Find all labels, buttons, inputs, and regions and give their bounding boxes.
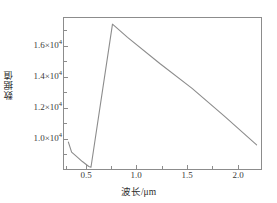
x-tick-mark [187, 165, 188, 169]
x-tick-mark-minor [111, 166, 112, 169]
x-tick-label: 1.5 [174, 171, 200, 180]
data-series-line [68, 24, 256, 167]
x-tick-mark-minor [162, 166, 163, 169]
y-tick-label: 1.6×104 [33, 41, 62, 50]
plot-area [63, 17, 262, 170]
x-tick-mark [136, 165, 137, 169]
x-tick-mark [238, 165, 239, 169]
chart-page: 数据值 1.6×104 1.4×104 1.2×104 1.0×104 0.5 … [0, 0, 277, 203]
y-tick-label: 1.0×104 [33, 134, 62, 143]
x-tick-mark-minor [66, 166, 67, 169]
figure-caption [0, 200, 277, 203]
x-axis-title: 波长/μm [0, 184, 277, 198]
y-tick-label: 1.2×104 [33, 103, 62, 112]
x-tick-label: 2.0 [225, 171, 251, 180]
x-tick-label: 0.5 [73, 171, 99, 180]
y-tick-label: 1.4×104 [33, 72, 62, 81]
x-tick-mark [86, 165, 87, 169]
x-tick-label: 1.0 [123, 171, 149, 180]
y-axis-title: 数据值 [5, 70, 19, 100]
x-tick-mark-minor [212, 166, 213, 169]
